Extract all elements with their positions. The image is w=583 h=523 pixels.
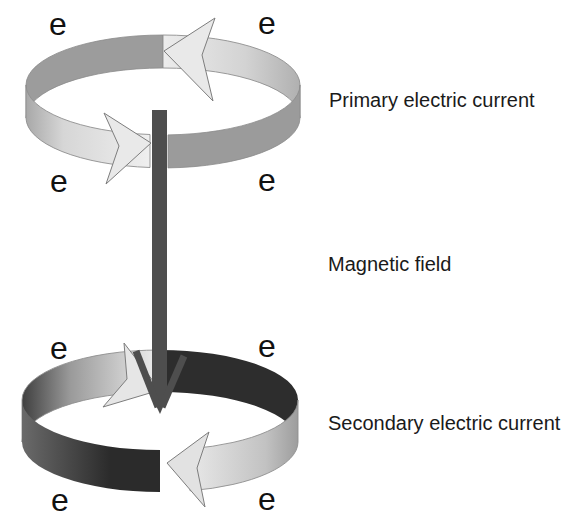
electron-label-secondary-top-left: e	[50, 332, 68, 364]
magnetic-field-shaft	[152, 110, 167, 396]
electron-label-primary-top-right: e	[258, 7, 276, 39]
electron-label-secondary-top-right: e	[258, 330, 276, 362]
primary-current-label: Primary electric current	[329, 88, 535, 112]
magnetic-field-label: Magnetic field	[328, 252, 451, 276]
primary-loop-front-right-band	[168, 85, 300, 168]
primary-loop-back-left-band	[26, 35, 163, 118]
electron-label-primary-bottom-right: e	[258, 164, 276, 196]
secondary-current-label: Secondary electric current	[328, 411, 560, 435]
electron-label-secondary-bottom-right: e	[258, 483, 276, 515]
electron-label-primary-bottom-left: e	[50, 165, 68, 197]
induction-diagram: e e e e e e e e Primary electric current…	[0, 0, 583, 523]
electron-label-primary-top-left: e	[49, 8, 67, 40]
electron-label-secondary-bottom-left: e	[51, 484, 69, 516]
diagram-canvas	[0, 0, 583, 523]
